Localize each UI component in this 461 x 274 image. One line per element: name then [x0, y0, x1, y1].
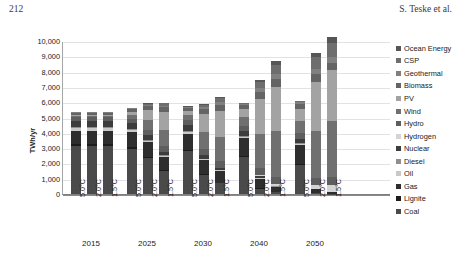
bar-segment	[143, 142, 153, 157]
legend-item: Biomass	[396, 80, 461, 93]
bar-segment	[239, 117, 249, 125]
legend-swatch-icon	[396, 196, 401, 201]
bar-segment	[327, 63, 337, 71]
bar-segment	[271, 65, 281, 74]
legend-swatch-icon	[396, 58, 401, 63]
bar-segment	[199, 114, 209, 132]
bar-segment	[143, 110, 153, 120]
bar-segment	[239, 109, 249, 117]
y-axis-tick-label: 2,000	[14, 160, 60, 168]
chart-legend: Ocean EnergyCSPGeothermalBiomassPVWindHy…	[396, 42, 461, 218]
legend-item: Diesel	[396, 155, 461, 168]
y-axis-tick-label: 6,000	[14, 99, 60, 107]
bar-segment	[127, 132, 137, 147]
bar-segment	[103, 131, 113, 144]
bar-segment	[327, 70, 337, 120]
bar-segment	[311, 82, 321, 131]
legend-item: Gas	[396, 180, 461, 193]
legend-label: CSP	[404, 56, 419, 65]
legend-swatch-icon	[396, 159, 401, 164]
x-axis-group-label: 2040	[229, 239, 289, 248]
legend-swatch-icon	[396, 71, 401, 76]
legend-item: Coal	[396, 205, 461, 218]
legend-label: Geothermal	[404, 69, 443, 78]
bar-segment	[295, 109, 305, 121]
page-number: 212	[9, 4, 23, 14]
legend-label: Hydrogen	[404, 132, 436, 141]
stacked-bar-chart: TWh/yr 10,0009,0008,0007,0006,0005,0004,…	[0, 28, 461, 274]
bar-segment	[183, 134, 193, 150]
legend-item: Oil	[396, 167, 461, 180]
legend-swatch-icon	[396, 96, 401, 101]
legend-label: Biomass	[404, 81, 432, 90]
x-axis-year-labels: 20152025203020402050	[62, 239, 390, 253]
y-axis-tick-label: 9,000	[14, 53, 60, 61]
y-axis-tick-label: 10,000	[14, 38, 60, 46]
legend-label: Wind	[404, 107, 421, 116]
legend-label: Nuclear	[404, 144, 429, 153]
running-head: S. Teske et al.	[399, 4, 452, 14]
legend-label: Hydro	[404, 119, 424, 128]
bar-segment	[159, 130, 169, 146]
legend-label: Diesel	[404, 157, 425, 166]
bar-segment	[255, 99, 265, 134]
legend-label: Oil	[404, 169, 413, 178]
x-axis-group-label: 2050	[285, 239, 345, 248]
bar-segment	[271, 79, 281, 86]
bar-segment	[71, 131, 81, 144]
y-axis-tick-label: 7,000	[14, 84, 60, 92]
y-axis-tick-label: 8,000	[14, 69, 60, 77]
y-axis-tick-label: 4,000	[14, 130, 60, 138]
bar-segment	[143, 120, 153, 130]
bar-segment	[295, 145, 305, 164]
legend-item: Geothermal	[396, 67, 461, 80]
legend-item: Ocean Energy	[396, 42, 461, 55]
legend-item: PV	[396, 92, 461, 105]
legend-swatch-icon	[396, 171, 401, 176]
legend-item: Wind	[396, 105, 461, 118]
y-axis-tick-label: 3,000	[14, 145, 60, 153]
legend-item: Hydrogen	[396, 130, 461, 143]
bar-segment	[295, 121, 305, 133]
legend-swatch-icon	[396, 134, 401, 139]
y-axis-tick-label: 5,000	[14, 115, 60, 123]
bar-segment	[159, 112, 169, 130]
legend-item: Hydro	[396, 117, 461, 130]
bar-segment	[271, 87, 281, 131]
legend-swatch-icon	[396, 209, 401, 214]
legend-item: Nuclear	[396, 142, 461, 155]
legend-swatch-icon	[396, 121, 401, 126]
x-axis-group-label: 2030	[173, 239, 233, 248]
legend-item: Lignite	[396, 193, 461, 206]
x-axis-scenario-labels: 5.0°C2.0°C1.5°C5.0°C2.0°C1.5°C5.0°C2.0°C…	[62, 197, 390, 237]
y-axis-tick-label: 0	[14, 191, 60, 199]
y-axis-tick-label: 1,000	[14, 176, 60, 184]
x-axis-group-label: 2025	[117, 239, 177, 248]
bar-segment	[215, 137, 225, 161]
x-axis-tick-label: 1.5°C	[334, 163, 368, 197]
legend-swatch-icon	[396, 146, 401, 151]
bar-segment	[199, 132, 209, 149]
bar-segment	[311, 74, 321, 81]
legend-swatch-icon	[396, 46, 401, 51]
bar-segment	[215, 111, 225, 137]
legend-item: CSP	[396, 55, 461, 68]
bar-segment	[87, 131, 97, 144]
legend-swatch-icon	[396, 83, 401, 88]
legend-label: Coal	[404, 207, 419, 216]
legend-swatch-icon	[396, 109, 401, 114]
page-header: 212 S. Teske et al.	[0, 4, 461, 20]
legend-swatch-icon	[396, 184, 401, 189]
y-axis-tick-labels: 10,0009,0008,0007,0006,0005,0004,0003,00…	[10, 28, 60, 198]
legend-label: Ocean Energy	[404, 44, 451, 53]
legend-label: PV	[404, 94, 414, 103]
legend-label: Gas	[404, 182, 418, 191]
bar-segment	[327, 43, 337, 57]
legend-label: Lignite	[404, 194, 426, 203]
bar-segment	[311, 57, 321, 69]
bar-segment	[239, 138, 249, 156]
x-axis-group-label: 2015	[61, 239, 121, 248]
